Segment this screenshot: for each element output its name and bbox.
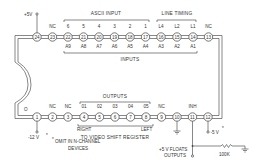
svg-text:INPUTS: INPUTS <box>121 57 140 62</box>
svg-text:*: * <box>222 126 224 131</box>
svg-text:1: 1 <box>144 24 147 29</box>
pin-20: 204A7 <box>95 24 103 49</box>
pin-2: 2NC <box>48 104 56 121</box>
svg-text:NC: NC <box>158 104 165 109</box>
svg-text:03: 03 <box>112 104 118 109</box>
svg-text:A5: A5 <box>127 44 133 49</box>
svg-text:02: 02 <box>97 104 103 109</box>
top-pin-row: 24 23NC 226A9 215A8 204A7 193A6 182A5 17… <box>33 24 213 49</box>
svg-text:LINE TIMING: LINE TIMING <box>162 11 193 16</box>
pin-7: 704 <box>126 104 134 121</box>
pin-17: 171A4 <box>141 24 149 49</box>
svg-text:NC: NC <box>205 24 212 29</box>
svg-text:21: 21 <box>81 35 87 40</box>
ic-pinout-diagram: 24 23NC 226A9 215A8 204A7 193A6 182A5 17… <box>0 0 263 167</box>
inputs-group: INPUTS <box>64 51 197 62</box>
svg-text:ASCII INPUT: ASCII INPUT <box>91 11 121 16</box>
svg-text:22: 22 <box>65 35 71 40</box>
svg-text:9: 9 <box>160 115 163 120</box>
svg-text:A8: A8 <box>81 44 87 49</box>
minus5v-supply: -5 V * <box>207 121 224 135</box>
pin-12: 12 <box>204 113 212 121</box>
plus5v-supply: +5V <box>24 12 38 33</box>
svg-text:05: 05 <box>143 104 149 109</box>
pin-5: 502 <box>95 104 103 121</box>
svg-text:OUTPUTS: OUTPUTS <box>103 94 127 99</box>
svg-text:20: 20 <box>96 35 102 40</box>
pin-23: 23NC <box>48 24 56 41</box>
pin-18: 182A5 <box>126 24 134 49</box>
svg-text:L4: L4 <box>158 24 164 29</box>
line-timing-group: LINE TIMING <box>157 11 196 22</box>
svg-text:DEVICES: DEVICES <box>68 146 88 151</box>
svg-text:INH: INH <box>189 104 197 109</box>
floats-label-1: +5 V FLOATS <box>159 147 187 152</box>
pin-3: 3NC <box>64 104 72 121</box>
svg-text:1: 1 <box>36 115 39 120</box>
minus12v-supply: -12 V * <box>28 121 48 140</box>
pin-21: 215A8 <box>79 24 87 49</box>
pin-9: 9NC <box>157 104 165 121</box>
svg-text:4: 4 <box>83 115 86 120</box>
pin-24: 24 <box>33 33 41 41</box>
svg-text:2: 2 <box>129 24 132 29</box>
svg-text:24: 24 <box>34 35 40 40</box>
svg-text:4: 4 <box>98 24 101 29</box>
pin-4: 401 <box>80 104 88 121</box>
inh-circuit: 100K +5 V FLOATS OUTPUTS <box>159 121 249 158</box>
svg-text:15: 15 <box>174 35 180 40</box>
resistor-label: 100K <box>219 152 231 157</box>
svg-text:10: 10 <box>174 115 180 120</box>
svg-text:OMIT IN N-CHANNEL: OMIT IN N-CHANNEL <box>55 139 101 144</box>
pin-10: 10 <box>173 113 181 121</box>
svg-text:6: 6 <box>67 24 70 29</box>
svg-text:13: 13 <box>206 35 212 40</box>
svg-text:14: 14 <box>190 35 196 40</box>
svg-text:19: 19 <box>112 35 118 40</box>
svg-text:L1: L1 <box>190 24 196 29</box>
pin-11: 11INH <box>188 104 196 121</box>
svg-text:A9: A9 <box>65 44 71 49</box>
svg-text:TO VIDEO SHIFT REGISTER: TO VIDEO SHIFT REGISTER <box>81 135 150 140</box>
svg-text:11: 11 <box>190 115 195 120</box>
floats-label-2: OUTPUTS <box>164 153 186 158</box>
svg-text:23: 23 <box>50 35 56 40</box>
svg-text:8: 8 <box>145 115 148 120</box>
svg-text:17: 17 <box>143 35 149 40</box>
svg-text:5: 5 <box>98 115 101 120</box>
svg-text:A1: A1 <box>190 44 196 49</box>
ground-symbol-pin10 <box>174 121 181 134</box>
svg-text:LEFT: LEFT <box>141 127 152 132</box>
pin-15: 15L2A2 <box>173 24 181 49</box>
pin-14: 14L1A1 <box>189 24 197 49</box>
pin1-top-label: O <box>24 107 28 112</box>
svg-text:3: 3 <box>113 24 116 29</box>
svg-text:L2: L2 <box>174 24 180 29</box>
svg-text:6: 6 <box>114 115 117 120</box>
svg-text:3: 3 <box>67 115 70 120</box>
pin-13: 13NC <box>204 24 212 41</box>
svg-text:A3: A3 <box>158 44 164 49</box>
svg-text:A6: A6 <box>112 44 118 49</box>
svg-text:A2: A2 <box>174 44 180 49</box>
pin-6: 603 <box>111 104 119 121</box>
svg-text:*: * <box>46 133 48 138</box>
svg-text:5: 5 <box>82 24 85 29</box>
svg-text:12: 12 <box>205 115 211 120</box>
svg-text:18: 18 <box>127 35 133 40</box>
svg-text:NC: NC <box>49 104 56 109</box>
svg-text:04: 04 <box>128 104 134 109</box>
svg-text:A7: A7 <box>96 44 102 49</box>
svg-text:-12 V: -12 V <box>28 135 40 140</box>
ascii-input-group: ASCII INPUT <box>64 11 149 22</box>
pin-1: 1 <box>33 113 41 121</box>
svg-text:NC: NC <box>49 24 56 29</box>
pin-19: 193A6 <box>110 24 118 49</box>
pin-8: 805 <box>142 104 150 121</box>
svg-text:16: 16 <box>158 35 164 40</box>
pin-16: 16L4A3 <box>157 24 165 49</box>
pin-22: 226A9 <box>64 24 72 49</box>
svg-text:-5 V: -5 V <box>211 130 220 135</box>
svg-text:7: 7 <box>129 115 132 120</box>
svg-text:A4: A4 <box>143 44 149 49</box>
